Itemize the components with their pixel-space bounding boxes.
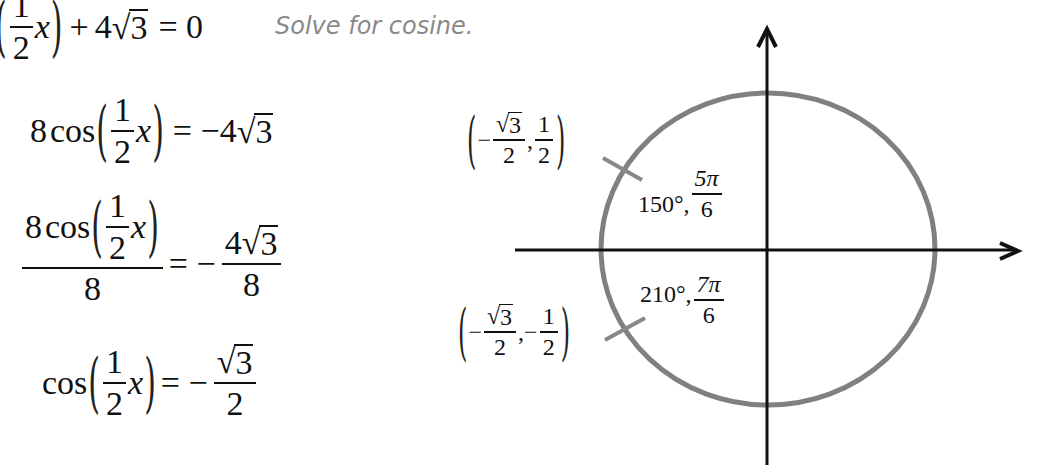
radical-icon: √ (237, 115, 256, 149)
fraction-bar (694, 299, 724, 301)
cos-function: cos (45, 209, 90, 245)
fraction-half: 1 2 (106, 188, 129, 265)
numerator: 1 (103, 344, 126, 380)
left-paren: ( (467, 109, 476, 171)
equals-minus: = − (161, 366, 208, 400)
denominator: 2 (103, 386, 126, 422)
left-paren: ( (96, 98, 108, 164)
equals-minus: = − (169, 247, 216, 281)
fraction-bar (22, 267, 163, 269)
fraction-bar (103, 382, 126, 384)
radicand: 3 (254, 113, 273, 149)
equation-line-2: 8 cos ( 1 2 x ) = −4 √3 (30, 92, 273, 169)
coefficient: 8 (30, 114, 47, 148)
fraction-bar (540, 331, 558, 333)
left-paren: ( (458, 301, 467, 363)
lhs-denominator: 8 (81, 271, 104, 307)
rhs-denominator: 8 (240, 267, 263, 303)
numerator: 1 (10, 0, 33, 24)
radical-icon: √ (217, 344, 236, 380)
angle-label-210: 210°, 7π 6 (640, 272, 726, 328)
left-paren: ( (91, 192, 103, 261)
denominator: 2 (500, 143, 518, 168)
equation-line-3: 8 cos ( 1 2 x ) 8 = − 4 √3 8 (20, 188, 283, 307)
x-coordinate: √3 2 (493, 112, 525, 168)
lhs-numerator: 8 cos ( 1 2 x ) (22, 188, 163, 265)
denominator: 6 (698, 197, 716, 222)
left-paren: ( (88, 350, 100, 416)
right-paren: ) (556, 109, 565, 171)
radicand: 3 (129, 9, 148, 45)
fraction-half: 1 2 (103, 344, 126, 421)
right-paren: ) (147, 192, 159, 261)
square-root: √3 (496, 112, 522, 137)
fraction-bar (214, 382, 257, 384)
coordinate-150: ( − √3 2 , 1 2 ) (466, 112, 566, 168)
right-paren: ) (152, 98, 164, 164)
leader-210 (605, 318, 645, 340)
numerator: 5π (692, 166, 722, 191)
fraction-half: 1 2 (111, 92, 134, 169)
radicand: 3 (259, 225, 278, 261)
numerator: 1 (106, 188, 129, 224)
fraction-bar (222, 263, 282, 265)
radians: 7π 6 (694, 272, 724, 328)
square-root: √3 (217, 344, 254, 380)
square-root: √3 (112, 9, 149, 45)
rhs: = 0 (158, 10, 203, 44)
rhs-numerator: √3 (214, 344, 257, 380)
denominator: 2 (111, 134, 134, 170)
square-root: √3 (237, 113, 274, 149)
denominator: 2 (10, 30, 33, 66)
radicand: 3 (499, 304, 513, 329)
angle-label-150: 150°, 5π 6 (638, 166, 724, 222)
denominator: 2 (540, 335, 558, 360)
fraction-bar (106, 226, 129, 228)
cos-function: cos (42, 366, 87, 400)
variable-x: x (131, 209, 146, 245)
cos-function: cos (50, 114, 95, 148)
minus-sign: − (524, 320, 538, 344)
denominator: 2 (491, 335, 509, 360)
instruction-text: Solve for cosine. (275, 12, 473, 40)
numerator: 1 (111, 92, 134, 128)
equation-line-4: cos ( 1 2 x ) = − √3 2 (42, 344, 258, 422)
rhs-denominator: 2 (224, 386, 247, 422)
degrees: 150°, (638, 192, 690, 216)
fraction-bar (692, 193, 722, 195)
rhs-numerator: 4 √3 (222, 225, 282, 261)
fraction-half: 1 2 (10, 0, 33, 65)
x-coordinate: √3 2 (484, 304, 516, 360)
coefficient: 4 (225, 225, 242, 261)
lhs-fraction: 8 cos ( 1 2 x ) 8 (22, 188, 163, 307)
radians: 5π 6 (692, 166, 722, 222)
variable-x: x (136, 114, 151, 148)
numerator: 1 (535, 112, 553, 137)
fraction-bar (10, 26, 33, 28)
coordinate-210: ( − √3 2 , − 1 2 ) (457, 304, 571, 360)
minus-sign: − (468, 320, 482, 344)
radical-icon: √ (112, 11, 131, 45)
denominator: 6 (700, 303, 718, 328)
plus-sign: + (70, 10, 89, 44)
radical-icon: √ (242, 225, 261, 261)
equation-line-1: ( 1 2 x ) + 4 √3 = 0 (0, 0, 203, 65)
right-paren: ) (51, 0, 63, 60)
comma: , (527, 128, 533, 152)
denominator: 2 (106, 230, 129, 266)
variable-x: x (128, 366, 143, 400)
fraction-bar (535, 139, 553, 141)
coefficient: 4 (95, 10, 112, 44)
numerator: 7π (694, 272, 724, 297)
fraction-bar (484, 331, 516, 333)
y-coordinate: 1 2 (535, 112, 553, 168)
degrees: 210°, (640, 282, 692, 306)
fraction-bar (493, 139, 525, 141)
radicand: 3 (508, 112, 522, 137)
right-paren: ) (561, 301, 570, 363)
coefficient: 8 (25, 209, 42, 245)
fraction-bar (111, 130, 134, 132)
numerator: 1 (540, 304, 558, 329)
minus-sign: − (477, 128, 491, 152)
square-root: √3 (487, 304, 513, 329)
